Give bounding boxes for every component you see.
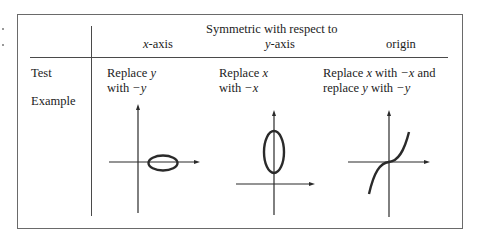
example-graph-origin (0, 0, 479, 238)
